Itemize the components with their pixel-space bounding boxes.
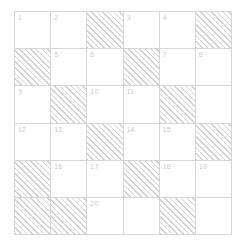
grid-cell[interactable]: 7 bbox=[160, 49, 196, 86]
grid-cell-hatched[interactable] bbox=[15, 161, 51, 198]
grid-cell[interactable]: 14 bbox=[124, 124, 160, 161]
grid-cell-hatched[interactable] bbox=[160, 86, 196, 123]
grid-cell[interactable]: 15 bbox=[160, 124, 196, 161]
grid-cell[interactable] bbox=[196, 198, 232, 235]
grid-cell-hatched[interactable] bbox=[51, 198, 87, 235]
grid-cell-hatched[interactable] bbox=[196, 124, 232, 161]
cell-number-label: 15 bbox=[163, 125, 171, 135]
grid-cell-hatched[interactable] bbox=[124, 161, 160, 198]
puzzle-grid: 1234567891011121314151617181920 bbox=[14, 11, 232, 235]
cell-number-label: 6 bbox=[90, 50, 94, 60]
grid-cell[interactable]: 2 bbox=[51, 12, 87, 49]
cell-number-label: 4 bbox=[163, 13, 167, 23]
grid-cell[interactable]: 18 bbox=[160, 161, 196, 198]
cell-number-label: 17 bbox=[90, 162, 98, 172]
grid-cell-hatched[interactable] bbox=[15, 49, 51, 86]
cell-number-label: 12 bbox=[18, 125, 26, 135]
grid-cell[interactable]: 10 bbox=[87, 86, 123, 123]
grid-cell[interactable]: 9 bbox=[15, 86, 51, 123]
cell-number-label: 11 bbox=[127, 87, 135, 97]
grid-cell-hatched[interactable] bbox=[160, 198, 196, 235]
cell-number-label: 5 bbox=[54, 50, 58, 60]
grid-cell[interactable]: 4 bbox=[160, 12, 196, 49]
grid-cell-hatched[interactable] bbox=[15, 198, 51, 235]
grid-canvas: 1234567891011121314151617181920 bbox=[0, 0, 246, 247]
cell-number-label: 20 bbox=[90, 199, 98, 209]
grid-cell[interactable]: 8 bbox=[196, 49, 232, 86]
grid-cell-hatched[interactable] bbox=[196, 12, 232, 49]
cell-number-label: 2 bbox=[54, 13, 58, 23]
cell-number-label: 8 bbox=[199, 50, 203, 60]
cell-number-label: 7 bbox=[163, 50, 167, 60]
grid-cell[interactable]: 17 bbox=[87, 161, 123, 198]
grid-cell[interactable]: 5 bbox=[51, 49, 87, 86]
grid-cell[interactable] bbox=[124, 198, 160, 235]
cell-number-label: 1 bbox=[18, 13, 22, 23]
grid-cell-hatched[interactable] bbox=[87, 12, 123, 49]
grid-cell-hatched[interactable] bbox=[51, 86, 87, 123]
grid-cell[interactable] bbox=[196, 86, 232, 123]
grid-cell-hatched[interactable] bbox=[87, 124, 123, 161]
grid-cell-hatched[interactable] bbox=[124, 49, 160, 86]
cell-number-label: 14 bbox=[127, 125, 135, 135]
cell-number-label: 16 bbox=[54, 162, 62, 172]
grid-cell[interactable]: 6 bbox=[87, 49, 123, 86]
cell-number-label: 3 bbox=[127, 13, 131, 23]
cell-number-label: 19 bbox=[199, 162, 207, 172]
cell-number-label: 10 bbox=[90, 87, 98, 97]
grid-cell[interactable]: 13 bbox=[51, 124, 87, 161]
grid-cell[interactable]: 19 bbox=[196, 161, 232, 198]
grid-cell[interactable]: 3 bbox=[124, 12, 160, 49]
grid-cell[interactable]: 11 bbox=[124, 86, 160, 123]
grid-cell[interactable]: 1 bbox=[15, 12, 51, 49]
cell-number-label: 13 bbox=[54, 125, 62, 135]
grid-cell[interactable]: 20 bbox=[87, 198, 123, 235]
grid-cell[interactable]: 12 bbox=[15, 124, 51, 161]
cell-number-label: 18 bbox=[163, 162, 171, 172]
cell-number-label: 9 bbox=[18, 87, 22, 97]
grid-cell[interactable]: 16 bbox=[51, 161, 87, 198]
